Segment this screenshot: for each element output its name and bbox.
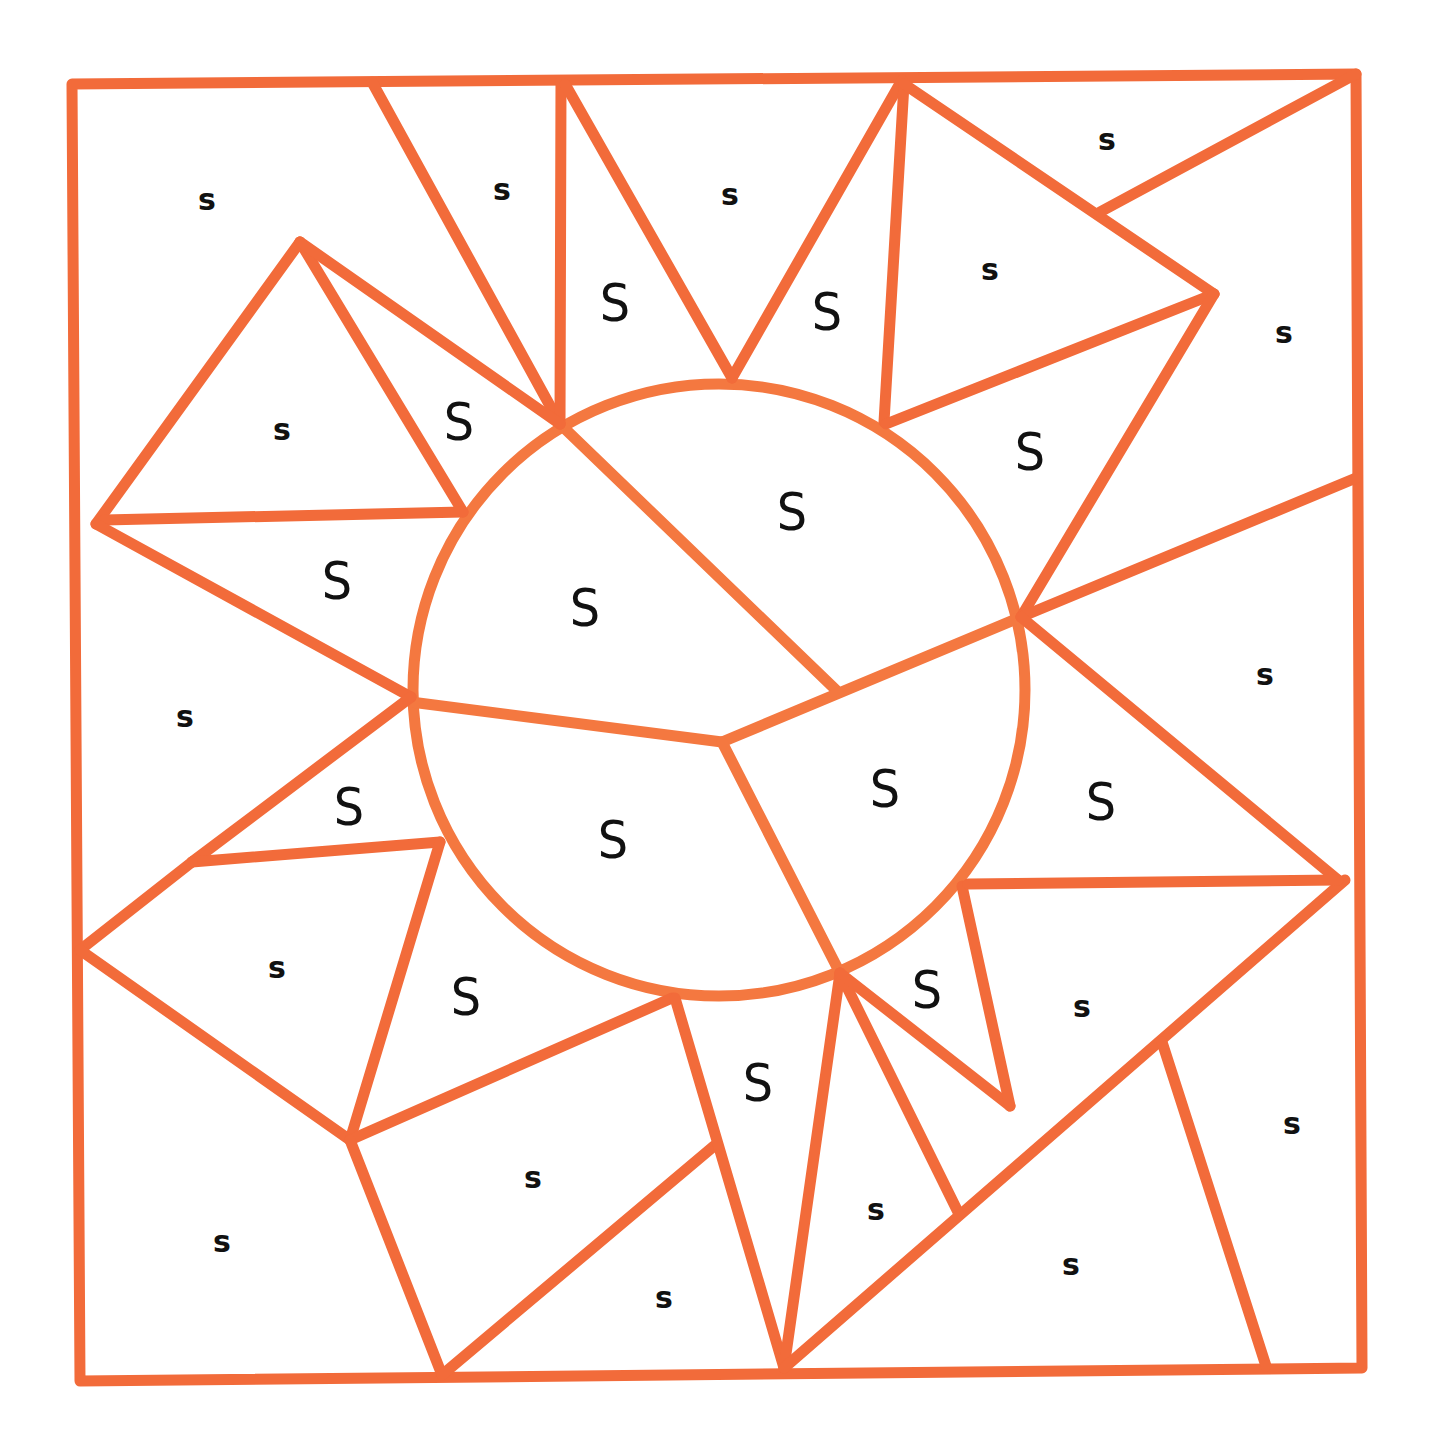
region-label-lowercase: s: [268, 953, 286, 983]
region-label-lowercase: s: [1283, 1109, 1301, 1139]
left-lower-spokes: [80, 697, 714, 1375]
region-label-lowercase: s: [1098, 125, 1116, 155]
region-label-lowercase: s: [213, 1227, 231, 1257]
circle-divisions: [411, 424, 1021, 973]
region-label-lowercase: s: [1256, 660, 1274, 690]
region-label-lowercase: s: [1062, 1250, 1080, 1280]
region-label-lowercase: s: [867, 1195, 885, 1225]
left-upper-spokes: [96, 242, 560, 697]
region-label-lowercase: s: [524, 1163, 542, 1193]
region-label-uppercase: S: [598, 814, 628, 866]
region-label-lowercase: s: [493, 175, 511, 205]
region-label-uppercase: S: [912, 964, 942, 1016]
region-label-lowercase: s: [1275, 318, 1293, 348]
region-label-uppercase: S: [600, 277, 630, 329]
region-label-uppercase: S: [444, 396, 474, 448]
region-label-lowercase: s: [721, 180, 739, 210]
center-circle: [413, 384, 1025, 996]
region-label-uppercase: S: [334, 781, 364, 833]
region-label-lowercase: s: [273, 415, 291, 445]
region-label-uppercase: S: [777, 486, 807, 538]
bottom-spokes: [675, 880, 1345, 1368]
region-label-lowercase: s: [1073, 992, 1091, 1022]
region-label-uppercase: S: [451, 971, 481, 1023]
region-label-lowercase: s: [198, 185, 216, 215]
region-label-uppercase: S: [570, 582, 600, 634]
region-label-uppercase: S: [870, 763, 900, 815]
region-label-uppercase: S: [1015, 426, 1045, 478]
region-label-lowercase: s: [176, 702, 194, 732]
region-label-lowercase: s: [655, 1283, 673, 1313]
region-label-uppercase: S: [743, 1057, 773, 1109]
region-label-uppercase: S: [322, 555, 352, 607]
outer-frame: [72, 74, 1362, 1381]
region-label-uppercase: S: [1086, 776, 1116, 828]
region-label-lowercase: s: [981, 255, 999, 285]
region-label-uppercase: S: [812, 286, 842, 338]
